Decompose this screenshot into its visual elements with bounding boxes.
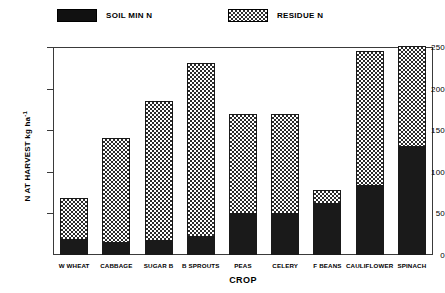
stacked-bar[interactable] — [398, 46, 426, 255]
x-axis-tick-label: B SPROUTS — [182, 262, 219, 269]
x-axis-tick-label: CELERY — [272, 262, 298, 269]
bar-group[interactable] — [145, 47, 173, 255]
bar-group[interactable] — [229, 47, 257, 255]
stacked-bar[interactable] — [187, 63, 215, 255]
x-axis-tick-label: W WHEAT — [59, 262, 90, 269]
bar-segment-soil-min-n[interactable] — [230, 213, 256, 255]
bar-segment-residue-n[interactable] — [314, 191, 340, 203]
x-axis-tick-label: PEAS — [234, 262, 251, 269]
bar-segment-soil-min-n[interactable] — [61, 239, 87, 255]
stacked-bar[interactable] — [229, 114, 257, 255]
bar-group[interactable] — [102, 47, 130, 255]
bar-segment-residue-n[interactable] — [272, 115, 298, 213]
x-axis-tick-label: F BEANS — [313, 262, 341, 269]
bar-segment-soil-min-n[interactable] — [146, 240, 172, 255]
x-axis-tick-label: CAULIFLOWER — [346, 262, 393, 269]
stacked-bar[interactable] — [271, 114, 299, 255]
x-axis-tick-label: CABBAGE — [100, 262, 132, 269]
x-axis-tick-label: SUGAR B — [144, 262, 174, 269]
bars-container — [53, 47, 433, 255]
stacked-bar[interactable] — [313, 190, 341, 255]
bar-chart: 050100150200250 N AT HARVEST kg ha-1 CRO… — [0, 0, 445, 293]
bar-group[interactable] — [187, 47, 215, 255]
bar-segment-residue-n[interactable] — [146, 102, 172, 240]
bar-segment-residue-n[interactable] — [103, 139, 129, 242]
x-axis-tick-label: SPINACH — [397, 262, 426, 269]
stacked-bar[interactable] — [145, 101, 173, 255]
bar-group[interactable] — [271, 47, 299, 255]
bar-group[interactable] — [356, 47, 384, 255]
bar-segment-residue-n[interactable] — [357, 52, 383, 185]
bar-segment-soil-min-n[interactable] — [357, 185, 383, 255]
stacked-bar[interactable] — [102, 138, 130, 255]
bar-segment-soil-min-n[interactable] — [399, 146, 425, 255]
bar-group[interactable] — [398, 47, 426, 255]
bar-group[interactable] — [60, 47, 88, 255]
stacked-bar[interactable] — [356, 51, 384, 255]
bar-segment-residue-n[interactable] — [230, 115, 256, 213]
y-axis-title: N AT HARVEST kg ha-1 — [22, 81, 33, 231]
bar-segment-residue-n[interactable] — [399, 47, 425, 146]
bar-segment-soil-min-n[interactable] — [314, 203, 340, 255]
bar-segment-residue-n[interactable] — [61, 199, 87, 238]
bar-segment-residue-n[interactable] — [188, 64, 214, 236]
stacked-bar[interactable] — [60, 198, 88, 255]
x-axis-title: CROP — [53, 275, 433, 285]
bar-group[interactable] — [313, 47, 341, 255]
bar-segment-soil-min-n[interactable] — [188, 236, 214, 255]
bar-segment-soil-min-n[interactable] — [103, 242, 129, 255]
bar-segment-soil-min-n[interactable] — [272, 213, 298, 255]
